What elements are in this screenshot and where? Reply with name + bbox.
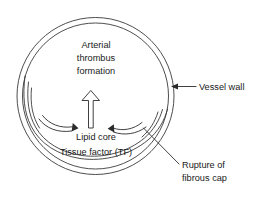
fibrous-cap-left-shoulder [31, 88, 39, 128]
label-thrombus: thrombus [77, 53, 116, 63]
label-rupture-line2: fibrous cap [182, 173, 227, 183]
label-rupture-line1: Rupture of [182, 160, 225, 170]
flow-arrow-left-curve-inner [43, 116, 73, 128]
flow-arrow-right-curve [114, 127, 147, 134]
flow-arrow-right-curve-inner [113, 123, 142, 130]
label-lipid-core: Lipid core [76, 132, 116, 142]
vessel-wall-leader-arrowhead [171, 83, 178, 89]
label-vessel-wall: Vessel wall [199, 82, 244, 92]
label-formation: formation [77, 66, 115, 76]
flow-arrow-left-arrowhead [72, 123, 79, 132]
label-arterial: Arterial [81, 40, 110, 50]
plaque-lipid-core-contour [28, 82, 163, 156]
label-tissue-factor: Tissue factor (TF) [60, 147, 132, 157]
thrombus-growth-block-arrow [82, 91, 100, 129]
vessel-cross-section-diagram: Arterial thrombus formation Lipid core T… [0, 0, 256, 202]
diagram-canvas: Arterial thrombus formation Lipid core T… [0, 0, 256, 202]
